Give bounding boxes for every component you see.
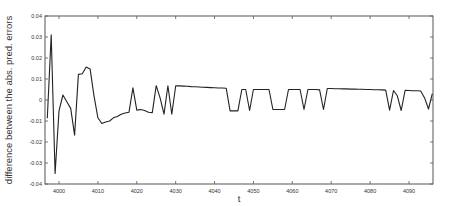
- x-axis-label: t: [238, 193, 241, 204]
- x-tick-label: 4050: [247, 188, 259, 194]
- x-tick-label: 4010: [92, 188, 104, 194]
- y-tick-label: 0: [39, 97, 42, 103]
- x-tick-label: 4030: [170, 188, 182, 194]
- y-tick-label: -0.04: [29, 181, 42, 187]
- y-axis-label: difference between the abs. pred. errors: [3, 16, 14, 185]
- x-tick-label: 4070: [325, 188, 337, 194]
- y-tick-label: -0.03: [29, 160, 42, 166]
- y-tick-label: -0.02: [29, 139, 42, 145]
- x-tick-label: 4080: [364, 188, 376, 194]
- y-tick-label: 0.02: [31, 55, 42, 61]
- x-tick-label: 4020: [131, 188, 143, 194]
- x-tick-label: 4000: [53, 188, 65, 194]
- y-tick-label: 0.04: [31, 13, 42, 19]
- plot-frame: [45, 16, 433, 184]
- plot-area: [45, 16, 433, 184]
- y-tick-label: 0.03: [31, 34, 42, 40]
- x-tick-label: 4040: [208, 188, 220, 194]
- y-tick-label: 0.01: [31, 76, 42, 82]
- line-chart: 4000401040204030404040504060407040804090…: [0, 0, 453, 206]
- y-tick-label: -0.01: [29, 118, 42, 124]
- x-tick-label: 4090: [403, 188, 415, 194]
- x-tick-label: 4060: [286, 188, 298, 194]
